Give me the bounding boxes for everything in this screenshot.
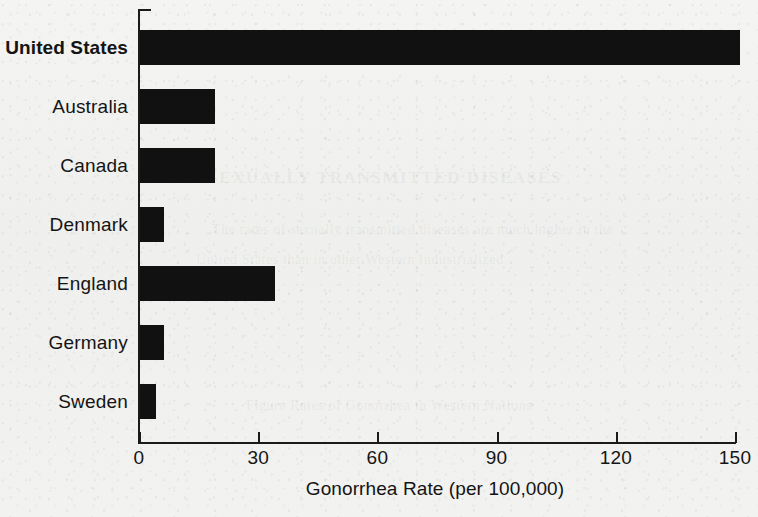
x-axis-line	[138, 442, 736, 444]
bar-united-states	[140, 30, 740, 65]
x-tick-60	[377, 432, 379, 443]
x-tick-30	[258, 432, 260, 443]
x-tick-label-0: 0	[134, 447, 145, 469]
scanned-chart-page: SEXUALLY TRANSMITTED DISEASES The rates …	[0, 0, 758, 517]
category-label-united-states: United States	[0, 38, 128, 57]
category-label-australia: Australia	[0, 97, 128, 116]
x-tick-label-90: 90	[486, 447, 508, 469]
x-tick-label-30: 30	[247, 447, 269, 469]
y-axis-top-cap	[138, 9, 151, 11]
bar-denmark	[140, 207, 164, 242]
x-tick-0	[139, 432, 141, 443]
category-label-sweden: Sweden	[0, 392, 128, 411]
bar-germany	[140, 325, 164, 360]
bar-england	[140, 266, 275, 301]
category-label-canada: Canada	[0, 156, 128, 175]
category-label-germany: Germany	[0, 333, 128, 352]
x-axis-title: Gonorrhea Rate (per 100,000)	[0, 478, 758, 500]
bar-sweden	[140, 384, 156, 419]
x-tick-150	[735, 432, 737, 443]
x-tick-label-150: 150	[719, 447, 751, 469]
category-label-england: England	[0, 274, 128, 293]
bar-australia	[140, 89, 215, 124]
x-tick-label-120: 120	[600, 447, 632, 469]
category-label-denmark: Denmark	[0, 215, 128, 234]
bar-canada	[140, 148, 215, 183]
x-tick-120	[616, 432, 618, 443]
x-tick-90	[497, 432, 499, 443]
bar-chart: 0306090120150 United StatesAustraliaCana…	[0, 0, 758, 517]
x-tick-label-60: 60	[367, 447, 389, 469]
